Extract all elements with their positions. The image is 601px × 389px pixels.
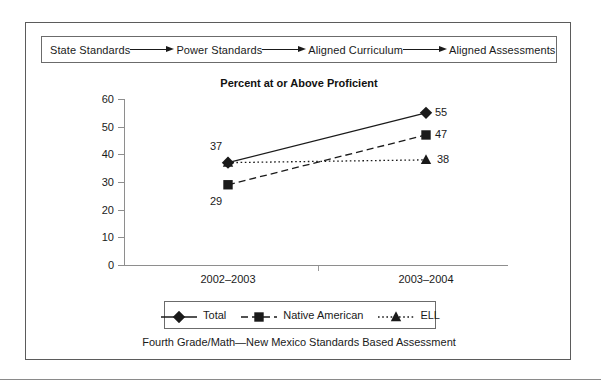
point-label-native-2003: 47 (435, 129, 447, 140)
point-label-ell-2003: 38 (437, 154, 449, 165)
right-arrow-icon (403, 45, 449, 54)
legend-sample-square (240, 309, 278, 321)
square-marker (255, 312, 264, 321)
triangle-marker (391, 311, 401, 321)
flow-step-state-standards: State Standards (50, 44, 130, 56)
legend-label: Native American (283, 309, 363, 321)
chart-title: Percent at or Above Proficient (26, 77, 572, 89)
right-arrow-icon (130, 45, 176, 54)
legend-label: ELL (420, 309, 440, 321)
point-label-total-2002: 37 (210, 141, 222, 152)
diamond-marker (173, 311, 185, 323)
series-line (228, 113, 426, 163)
figure-caption: Fourth Grade/Math—New Mexico Standards B… (26, 336, 572, 348)
figure-frame: State Standards Power Standards Aligned … (25, 22, 571, 360)
legend-sample-diamond (160, 309, 198, 321)
legend-entry: ELL (377, 309, 440, 321)
square-marker (223, 180, 232, 189)
diamond-marker (420, 107, 432, 119)
x-tick-label: 2002–2003 (183, 273, 273, 285)
point-label-total-2003: 55 (435, 107, 447, 118)
point-label-native-2002: 29 (210, 196, 222, 207)
triangle-marker (421, 154, 431, 164)
legend-sample-triangle (377, 309, 415, 321)
x-tick-label: 2003–2004 (381, 273, 471, 285)
legend-entry: Native American (240, 309, 363, 321)
legend-entry: Total (160, 309, 226, 321)
square-marker (421, 130, 430, 139)
series-lines (96, 99, 508, 269)
chart-legend: TotalNative AmericanELL (164, 301, 436, 329)
flow-step-aligned-curriculum: Aligned Curriculum (308, 44, 403, 56)
legend-label: Total (203, 309, 226, 321)
flow-step-aligned-assessments: Aligned Assessments (449, 44, 555, 56)
process-flow-box: State Standards Power Standards Aligned … (41, 36, 557, 63)
right-arrow-icon (262, 45, 308, 54)
flow-step-power-standards: Power Standards (176, 44, 262, 56)
bottom-divider (0, 379, 601, 380)
plot-area: 0102030405060 2002–20032003–2004 3729554… (96, 99, 508, 269)
